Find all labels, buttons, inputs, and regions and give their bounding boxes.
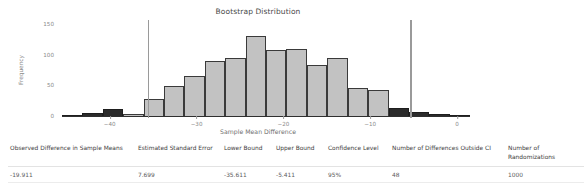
y-axis-ticks: 050100150 xyxy=(0,0,54,140)
value-differences-outside-ci: 48 xyxy=(390,167,506,183)
header-differences-outside-ci: Number of Differences Outside CI xyxy=(390,140,506,167)
histogram-bar xyxy=(144,99,164,116)
x-axis-tick-label: −40 xyxy=(104,121,116,127)
x-axis-tick-label: −30 xyxy=(191,121,203,127)
x-axis-tick-mark xyxy=(197,116,198,119)
x-axis-tick-label: 0 xyxy=(455,121,459,127)
histogram-bar xyxy=(205,61,225,116)
histogram-bar xyxy=(164,86,184,116)
ci-upper-bound-line xyxy=(410,20,412,118)
histogram-bar xyxy=(368,90,388,116)
value-lower-bound: -35.611 xyxy=(222,167,274,183)
y-axis-label: Frequency xyxy=(18,55,24,85)
histogram-bar xyxy=(225,58,245,116)
y-axis-tick-label: 50 xyxy=(47,82,54,88)
histogram-bar xyxy=(389,108,409,116)
histogram-bar xyxy=(266,50,286,116)
x-axis-tick-label: −10 xyxy=(364,121,376,127)
histogram-bar xyxy=(286,49,306,116)
ci-lower-bound-line xyxy=(148,20,150,118)
x-axis-tick-label: −20 xyxy=(277,121,289,127)
histogram-bar xyxy=(348,88,368,116)
statistics-table: Observed Difference in Sample Means Esti… xyxy=(8,140,584,183)
x-axis-tick-mark xyxy=(283,116,284,119)
bootstrap-distribution-chart: Bootstrap Distribution 050100150 Frequen… xyxy=(0,0,516,140)
value-upper-bound: -5.411 xyxy=(274,167,326,183)
histogram-bars xyxy=(62,24,470,116)
value-standard-error: 7.699 xyxy=(136,167,222,183)
x-axis-label: Sample Mean Difference xyxy=(0,128,516,135)
y-axis-tick-label: 150 xyxy=(43,21,54,27)
table-row: -19.911 7.699 -35.611 -5.411 95% 48 1000 xyxy=(8,167,584,183)
plot-area xyxy=(62,24,470,116)
value-observed-difference: -19.911 xyxy=(8,167,136,183)
y-axis-tick-label: 100 xyxy=(43,52,54,58)
header-lower-bound: Lower Bound xyxy=(222,140,274,167)
header-upper-bound: Upper Bound xyxy=(274,140,326,167)
histogram-bar xyxy=(307,65,327,116)
chart-title: Bootstrap Distribution xyxy=(0,7,516,16)
x-axis-tick-mark xyxy=(110,116,111,119)
histogram-bar xyxy=(246,36,266,116)
histogram-bar xyxy=(184,76,204,116)
statistics-table-wrapper: Observed Difference in Sample Means Esti… xyxy=(0,140,516,183)
header-confidence-level: Confidence Level xyxy=(326,140,390,167)
x-axis-tick-mark xyxy=(457,116,458,119)
header-observed-difference: Observed Difference in Sample Means xyxy=(8,140,136,167)
header-standard-error: Estimated Standard Error xyxy=(136,140,222,167)
histogram-bar xyxy=(327,58,347,116)
header-number-randomizations: Number of Randomizations xyxy=(506,140,584,167)
y-axis-tick-label: 0 xyxy=(50,113,54,119)
value-number-randomizations: 1000 xyxy=(506,167,584,183)
table-header-row: Observed Difference in Sample Means Esti… xyxy=(8,140,584,167)
x-axis-tick-mark xyxy=(370,116,371,119)
value-confidence-level: 95% xyxy=(326,167,390,183)
histogram-bar xyxy=(103,109,123,116)
